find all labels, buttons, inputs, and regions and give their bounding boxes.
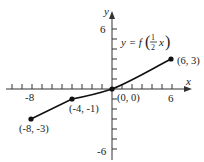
point-neg8-neg3 bbox=[28, 116, 33, 121]
y-axis bbox=[109, 11, 117, 160]
graph-figure: y x -8 6 6 -6 (-8, -3) (-4, -1) (0, 0) (… bbox=[0, 0, 204, 162]
y-tick-label-6: 6 bbox=[100, 23, 106, 35]
y-axis-arrow-icon bbox=[109, 11, 115, 19]
label-neg8-neg3: (-8, -3) bbox=[19, 123, 49, 135]
function-equation: y = f ( 1 2 x ) bbox=[120, 33, 170, 52]
label-6-3: (6, 3) bbox=[177, 55, 200, 67]
label-origin: (0, 0) bbox=[117, 92, 140, 104]
x-axis-label: x bbox=[185, 75, 191, 87]
svg-text:(: ( bbox=[145, 33, 150, 51]
x-tick-label-neg8: -8 bbox=[25, 91, 35, 103]
svg-text:x: x bbox=[158, 36, 164, 48]
svg-text:): ) bbox=[165, 33, 170, 51]
point-origin bbox=[109, 86, 114, 91]
x-tick-label-6: 6 bbox=[168, 92, 174, 104]
point-neg4-neg1 bbox=[69, 96, 74, 101]
point-6-3 bbox=[168, 56, 173, 61]
svg-text:1: 1 bbox=[151, 33, 155, 42]
svg-text:y = f: y = f bbox=[120, 36, 144, 48]
y-tick-label-neg6: -6 bbox=[97, 145, 107, 157]
y-axis-label: y bbox=[103, 5, 109, 17]
svg-text:2: 2 bbox=[151, 43, 155, 52]
coordinate-plane: y x -8 6 6 -6 (-8, -3) (-4, -1) (0, 0) (… bbox=[0, 0, 204, 162]
label-neg4-neg1: (-4, -1) bbox=[69, 103, 99, 115]
